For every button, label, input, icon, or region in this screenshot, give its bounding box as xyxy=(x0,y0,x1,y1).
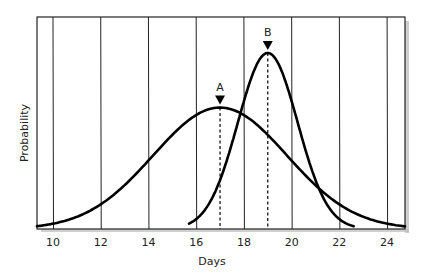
gridline xyxy=(101,17,102,229)
gridline xyxy=(339,17,340,229)
x-tick-labels: 1012141618202224 xyxy=(46,236,394,249)
gridline xyxy=(292,17,293,229)
series xyxy=(37,53,405,226)
marker-label-a: A xyxy=(216,81,224,94)
x-tick-label: 22 xyxy=(332,236,346,249)
frame-shadow xyxy=(41,21,409,233)
triangle-marker-b xyxy=(263,41,273,50)
x-tick-label: 14 xyxy=(141,236,155,249)
y-axis-label: Probability xyxy=(18,103,31,162)
plot-frame xyxy=(37,17,405,229)
gridline xyxy=(387,17,388,229)
x-tick-label: 12 xyxy=(94,236,108,249)
x-tick-label: 16 xyxy=(189,236,203,249)
x-axis-label: Days xyxy=(198,255,226,268)
marker-label-b: B xyxy=(264,26,272,39)
series-line-a xyxy=(37,108,405,227)
x-tick-label: 20 xyxy=(285,236,299,249)
x-tick-label: 24 xyxy=(380,236,394,249)
triangle-marker-a xyxy=(215,96,225,105)
x-tick-label: 10 xyxy=(46,236,60,249)
chart: AB 1012141618202224 Days Probability xyxy=(0,0,432,280)
gridline xyxy=(53,17,54,229)
x-tick-label: 18 xyxy=(237,236,251,249)
gridline xyxy=(244,17,245,229)
gridline xyxy=(196,17,197,229)
gridline xyxy=(148,17,149,229)
